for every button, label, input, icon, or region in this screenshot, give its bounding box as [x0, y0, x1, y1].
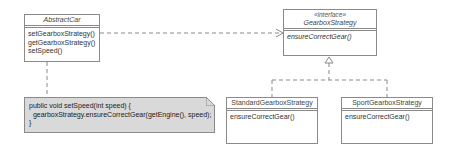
stereotype-label: «interface»: [286, 11, 374, 19]
class-operations: ensureCorrectGear(): [342, 111, 432, 124]
class-operations: ensureCorrectGear(): [227, 111, 317, 124]
operation: setGearboxStrategy(): [28, 30, 96, 39]
class-header: StandardGearboxStrategy: [227, 98, 317, 111]
operation: ensureCorrectGear(): [230, 113, 314, 122]
class-abstract-car[interactable]: AbstractCar setGearboxStrategy() getGear…: [24, 14, 100, 62]
operation: ensureCorrectGear(): [287, 33, 373, 42]
class-name: GearboxStrategy: [286, 19, 374, 27]
class-name: AbstractCar: [44, 16, 81, 23]
realization-triangle-icon: [325, 57, 333, 63]
note-line: gearboxStrategy.ensureCorrectGear(getEng…: [29, 111, 210, 120]
code-note[interactable]: public void setSpeed(int speed) { gearbo…: [24, 97, 215, 133]
class-sport-gearbox-strategy[interactable]: SportGearboxStrategy ensureCorrectGear(): [341, 97, 433, 144]
class-standard-gearbox-strategy[interactable]: StandardGearboxStrategy ensureCorrectGea…: [226, 97, 318, 144]
class-operations: setGearboxStrategy() getGearboxStrategy(…: [25, 28, 99, 58]
class-header: SportGearboxStrategy: [342, 98, 432, 111]
note-line: }: [29, 119, 210, 128]
class-operations: ensureCorrectGear(): [284, 31, 376, 44]
class-header: AbstractCar: [25, 15, 99, 28]
note-fold-corner-icon: [206, 97, 215, 106]
class-name: SportGearboxStrategy: [352, 99, 422, 106]
class-header: «interface» GearboxStrategy: [284, 10, 376, 31]
class-name: StandardGearboxStrategy: [231, 99, 312, 106]
operation: setSpeed(): [28, 47, 96, 56]
interface-gearbox-strategy[interactable]: «interface» GearboxStrategy ensureCorrec…: [283, 9, 377, 56]
operation: getGearboxStrategy(): [28, 39, 96, 48]
operation: ensureCorrectGear(): [345, 113, 429, 122]
note-line: public void setSpeed(int speed) {: [29, 102, 210, 111]
